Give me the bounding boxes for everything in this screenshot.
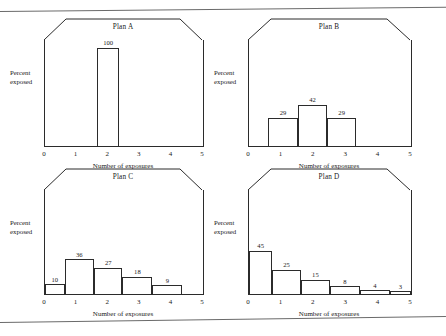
bar xyxy=(298,105,328,146)
plot-area: 100 xyxy=(45,40,203,146)
bar xyxy=(301,280,330,294)
x-tick-label: 2 xyxy=(100,299,114,306)
plot-frame: 103627189 xyxy=(44,190,204,295)
page-edge-top xyxy=(0,7,446,12)
bar xyxy=(94,268,122,294)
bar xyxy=(45,284,65,294)
bar-value-label: 9 xyxy=(152,278,182,285)
chart-title: Plan A xyxy=(44,24,202,31)
x-tick-label: 0 xyxy=(241,151,255,158)
bar xyxy=(327,118,356,146)
plot-frame: 452515843 xyxy=(248,190,412,295)
x-tick-label: 4 xyxy=(371,299,385,306)
plot-frame: 100 xyxy=(44,40,204,147)
chart-panel-plan-d: Plan D452515843012345Number of exposures xyxy=(248,168,410,320)
bar-value-label: 8 xyxy=(330,279,360,286)
x-tick-label: 0 xyxy=(37,299,51,306)
x-tick-label: 3 xyxy=(132,299,146,306)
bar-value-label: 100 xyxy=(97,40,119,47)
bar-value-label: 27 xyxy=(94,260,122,267)
x-tick-label: 0 xyxy=(241,299,255,306)
y-axis-label: Percent exposed xyxy=(10,218,32,236)
chart-title: Plan D xyxy=(248,174,410,181)
bar xyxy=(122,277,152,294)
x-tick-label: 0 xyxy=(37,151,51,158)
chart-title: Plan C xyxy=(44,174,202,181)
x-tick-label: 4 xyxy=(163,299,177,306)
bar xyxy=(360,290,390,294)
chart-title: Plan B xyxy=(248,24,410,31)
plot-area: 103627189 xyxy=(45,190,203,294)
x-tick-label: 1 xyxy=(69,299,83,306)
x-tick-label: 3 xyxy=(338,299,352,306)
bar-value-label: 25 xyxy=(272,262,301,269)
plot-frame: 294229 xyxy=(248,40,412,147)
x-tick-label: 4 xyxy=(163,151,177,158)
x-tick-label: 2 xyxy=(306,151,320,158)
x-tick-label: 3 xyxy=(338,151,352,158)
x-tick-label: 3 xyxy=(132,151,146,158)
bar-value-label: 45 xyxy=(249,243,272,250)
x-tick-label: 4 xyxy=(371,151,385,158)
x-tick-label: 5 xyxy=(403,151,417,158)
bar xyxy=(152,285,182,294)
y-axis-label: Percent exposed xyxy=(214,218,236,236)
bar-value-label: 18 xyxy=(122,269,152,276)
chart-panel-plan-b: Plan B294229012345Number of exposures xyxy=(248,18,410,172)
x-axis-label: Number of exposures xyxy=(248,311,410,318)
x-tick-label: 5 xyxy=(195,299,209,306)
chart-panel-plan-c: Plan C103627189012345Number of exposures xyxy=(44,168,202,320)
bar xyxy=(390,291,411,294)
bar-value-label: 29 xyxy=(268,110,297,117)
x-tick-label: 2 xyxy=(306,299,320,306)
bar xyxy=(65,259,94,294)
y-axis-label: Percent exposed xyxy=(214,68,236,86)
y-axis-label: Percent exposed xyxy=(10,68,32,86)
bar xyxy=(272,270,301,294)
x-tick-label: 5 xyxy=(195,151,209,158)
plot-area: 294229 xyxy=(249,40,411,146)
bar-value-label: 10 xyxy=(45,277,65,284)
chart-panel-plan-a: Plan A100012345Number of exposures xyxy=(44,18,202,172)
x-tick-label: 2 xyxy=(100,151,114,158)
plot-area: 452515843 xyxy=(249,190,411,294)
bar xyxy=(249,251,272,294)
bar-value-label: 29 xyxy=(327,110,356,117)
x-tick-label: 5 xyxy=(403,299,417,306)
bar-value-label: 3 xyxy=(390,284,411,291)
x-tick-label: 1 xyxy=(273,299,287,306)
x-tick-label: 1 xyxy=(273,151,287,158)
bar xyxy=(330,286,360,294)
bar xyxy=(97,48,119,146)
bar-value-label: 42 xyxy=(298,97,328,104)
bar-value-label: 15 xyxy=(301,272,330,279)
bar-value-label: 4 xyxy=(360,283,390,290)
bar xyxy=(268,118,297,146)
x-tick-label: 1 xyxy=(69,151,83,158)
bar-value-label: 36 xyxy=(65,252,94,259)
x-axis-label: Number of exposures xyxy=(44,311,202,318)
